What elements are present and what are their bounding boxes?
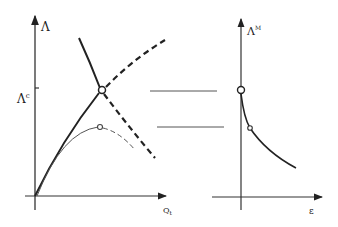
descending-branch-dashed: [104, 94, 155, 158]
critical-point-marker: [99, 87, 106, 94]
connector-lines: [150, 91, 224, 127]
left-y-axis-label: Λ: [40, 20, 50, 34]
thin-curve-peak-marker: [98, 125, 103, 130]
right-descending-curve: [241, 94, 296, 168]
right-plot: ΛM ε: [212, 19, 322, 216]
right-y-axis-label: ΛM: [246, 24, 261, 38]
thick-rising-curve-dashed: [106, 40, 165, 87]
left-x-axis-label: Qt: [163, 206, 173, 216]
critical-value-label: Λc: [16, 92, 30, 106]
left-plot: Λ Λc Qt: [16, 16, 173, 216]
thin-rising-curve-dashed: [103, 128, 135, 150]
descending-branch-solid: [79, 38, 100, 88]
right-secondary-marker: [248, 126, 253, 131]
right-x-axis-label: ε: [309, 206, 314, 216]
right-critical-marker: [238, 87, 245, 94]
diagram-canvas: Λ Λc Qt ΛM ε: [0, 0, 338, 227]
